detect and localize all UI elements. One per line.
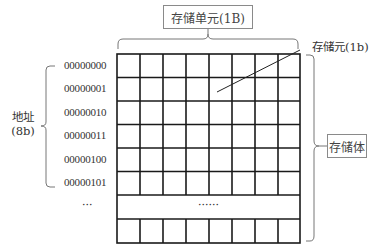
memory-diagram-graphics bbox=[0, 0, 371, 251]
bit-pointer-line bbox=[217, 50, 300, 92]
top-brace bbox=[118, 34, 298, 49]
left-brace bbox=[41, 66, 55, 187]
right-brace bbox=[306, 55, 319, 241]
memory-grid bbox=[117, 54, 300, 243]
